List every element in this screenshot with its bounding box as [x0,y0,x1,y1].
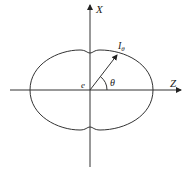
radiation-pattern-diagram: X Z Iθ e θ [0,0,185,175]
z-axis-label: Z [170,77,177,89]
origin-label: e [81,80,85,90]
vector-label: Iθ [117,40,125,53]
angle-label: θ [110,77,115,88]
x-axis-label: X [95,3,104,15]
theta-arc [100,77,107,90]
vector-label-subscript: θ [121,45,125,53]
